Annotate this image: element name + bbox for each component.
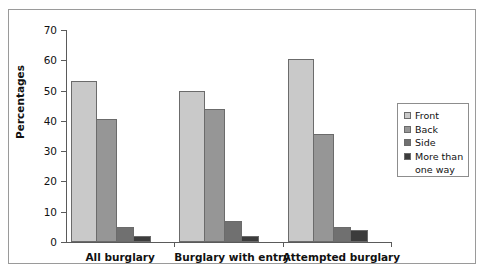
bar — [116, 227, 134, 242]
y-tick-mark — [61, 91, 66, 92]
bar — [96, 119, 117, 242]
y-tick-mark — [61, 30, 66, 31]
legend-label-front: Front — [415, 110, 467, 121]
chart-legend: Front Back Side More than one way — [397, 103, 469, 177]
bar — [333, 227, 351, 242]
y-tick-label: 0 — [23, 236, 57, 248]
legend-label-more-than-one-way-cont: one way — [415, 164, 468, 175]
bar — [313, 134, 334, 242]
bar — [288, 59, 314, 242]
legend-label-back: Back — [415, 124, 467, 135]
bar — [241, 236, 259, 242]
legend-label-side: Side — [415, 137, 467, 148]
y-tick-label: 10 — [23, 206, 57, 218]
bar — [179, 91, 205, 242]
y-axis-line — [66, 30, 67, 243]
y-tick-label: 40 — [23, 115, 57, 127]
y-tick-label: 60 — [23, 54, 57, 66]
legend-swatch-front — [404, 112, 411, 119]
y-tick-mark — [61, 242, 66, 243]
y-tick-label: 70 — [23, 24, 57, 36]
x-tick-mark — [283, 242, 284, 247]
x-category-label: Attempted burglary — [283, 251, 391, 263]
y-axis-title: Percentages — [14, 17, 26, 187]
x-category-label: All burglary — [66, 251, 174, 263]
legend-item-side: Side — [404, 137, 468, 148]
legend-swatch-back — [404, 126, 411, 133]
y-tick-label: 50 — [23, 85, 57, 97]
y-tick-label: 30 — [23, 145, 57, 157]
bar — [133, 236, 151, 242]
x-tick-mark — [174, 242, 175, 247]
x-axis-line — [66, 242, 391, 243]
y-tick-mark — [61, 60, 66, 61]
legend-swatch-more-than-one-way — [404, 153, 411, 160]
bar — [71, 81, 97, 242]
x-category-label: Burglary with entry — [174, 251, 282, 263]
bar — [224, 221, 242, 242]
y-tick-mark — [61, 212, 66, 213]
bar — [350, 230, 368, 242]
legend-item-back: Back — [404, 124, 468, 135]
x-tick-mark — [391, 242, 392, 247]
legend-item-front: Front — [404, 110, 468, 121]
y-tick-mark — [61, 121, 66, 122]
chart-frame: Percentages 010203040506070 All burglary… — [8, 9, 476, 264]
y-tick-mark — [61, 151, 66, 152]
legend-swatch-side — [404, 139, 411, 146]
bar — [204, 109, 225, 242]
y-tick-mark — [61, 181, 66, 182]
legend-item-more-than-one-way: More than — [404, 151, 468, 162]
y-tick-label: 20 — [23, 175, 57, 187]
legend-label-more-than-one-way: More than — [415, 151, 467, 162]
